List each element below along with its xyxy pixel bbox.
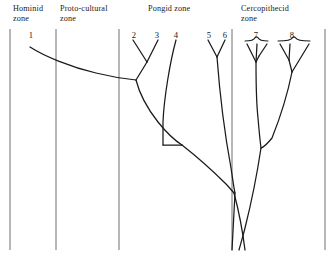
branch-cerco-8-tip-b: [289, 44, 290, 60]
tip-number-3: 3: [150, 30, 164, 40]
branch-cerco-8-node: [289, 60, 292, 72]
branch-cerco-8-tip-c: [292, 44, 309, 72]
branch-hominid-1: [30, 47, 136, 80]
figure-canvas: Hominid zoneProto-cultural zonePongid zo…: [0, 0, 334, 257]
branch-cerco-7-tip-c: [259, 44, 267, 56]
branch-main-node-to-trunk: [136, 80, 182, 145]
tip-number-5: 5: [202, 30, 216, 40]
tip-number-2: 2: [127, 30, 141, 40]
tip-number-4: 4: [169, 30, 183, 40]
branch-node-23-to-main: [136, 62, 147, 80]
branch-trunk-crossing-down: [234, 193, 245, 250]
branch-tip-5: [208, 40, 217, 57]
branch-root-stem: [232, 193, 235, 250]
branch-trunk-lower: [182, 145, 234, 193]
branch-tip-6: [217, 40, 225, 57]
branch-tip-2: [133, 40, 147, 62]
tip-number-6: 6: [218, 30, 232, 40]
branch-tip-3: [147, 40, 158, 62]
phylogeny-svg: [0, 0, 334, 257]
branch-cerco-7-tip-a: [247, 44, 256, 62]
branch-cerco-8-tip-a: [280, 44, 289, 60]
zone-label-hominid: Hominid zone: [13, 4, 43, 23]
zone-label-cercopithecid: Cercopithecid zone: [241, 4, 289, 23]
branch-cerco-7-stem: [256, 62, 261, 148]
zone-label-pongid: Pongid zone: [148, 4, 190, 14]
zone-divider-group: [10, 29, 325, 250]
tip-number-8: 8: [285, 30, 299, 40]
tip-number-7: 7: [249, 30, 263, 40]
tree-branch-group: [30, 40, 309, 250]
branch-cerco-8-stem: [261, 72, 292, 148]
zone-label-proto-cultural: Proto-cultural zone: [60, 4, 108, 23]
tip-number-1: 1: [24, 30, 38, 40]
